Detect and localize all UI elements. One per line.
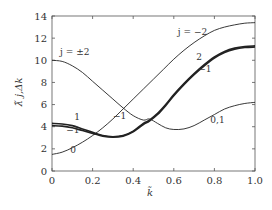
annotation-label: −1 xyxy=(113,111,126,121)
x-tick-label: 0.8 xyxy=(206,175,222,186)
plot-frame xyxy=(52,16,255,171)
y-tick-label: 2 xyxy=(41,143,47,154)
annotation-label: 1 xyxy=(74,112,80,122)
annotation-label: 0 xyxy=(70,145,76,155)
x-tick-label: 0.6 xyxy=(166,175,182,186)
axes-frame xyxy=(52,16,255,171)
x-tick-label: 0.4 xyxy=(125,175,141,186)
y-tick-label: 4 xyxy=(41,121,47,132)
y-tick-label: 8 xyxy=(41,77,47,88)
y-tick-label: 0 xyxy=(41,166,47,177)
y-tick-label: 14 xyxy=(34,11,47,22)
chart: 00.20.40.60.81.0 02468101214 j = ±2j = −… xyxy=(0,0,272,210)
annotation-label: 2 xyxy=(196,52,202,62)
annotation-label: −1 xyxy=(198,64,211,74)
x-tick-label: 1.0 xyxy=(247,175,263,186)
annotation-label: 0,1 xyxy=(210,115,224,125)
x-axis-label: k̃ xyxy=(147,186,153,198)
annotation-label: j = ±2 xyxy=(59,47,89,57)
y-tick-label: 10 xyxy=(34,55,47,66)
x-tick-label: 0 xyxy=(49,175,55,186)
x-ticks: 00.20.40.60.81.0 xyxy=(49,16,263,186)
y-tick-label: 12 xyxy=(34,33,47,44)
series-line-1 xyxy=(52,23,255,155)
y-axis-label: λ̃ j,Δk xyxy=(13,77,24,107)
y-tick-label: 6 xyxy=(41,99,47,110)
x-tick-label: 0.2 xyxy=(85,175,101,186)
y-ticks: 02468101214 xyxy=(34,11,255,177)
annotation-label: j = −2 xyxy=(177,27,207,37)
series-lines xyxy=(52,23,255,155)
annotation-label: −1 xyxy=(66,125,79,135)
